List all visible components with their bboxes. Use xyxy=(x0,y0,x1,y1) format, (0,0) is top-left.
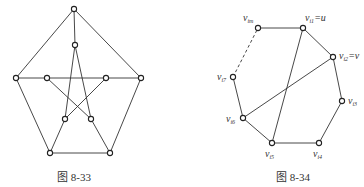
edge xyxy=(303,28,333,57)
diagram-canvas: vimvi1=uvi2=vvi3vi4vi5vi6vi7 图 8-33 图 8-… xyxy=(0,0,364,187)
edge xyxy=(333,57,342,101)
caption-figure-8-33: 图 8-33 xyxy=(57,171,91,183)
vertex-vi3 xyxy=(339,98,344,103)
edge xyxy=(47,78,91,119)
vertex-o4 xyxy=(47,150,52,155)
vertex-i5 xyxy=(44,75,49,80)
vertex-o1 xyxy=(71,6,76,11)
vertex-i2 xyxy=(103,75,108,80)
vertex-label-vi6: vi6 xyxy=(226,113,235,125)
vertex-vi2 xyxy=(330,54,335,59)
vertex-label-vi4: vi4 xyxy=(313,148,322,160)
vertex-i1 xyxy=(72,42,77,47)
edge xyxy=(65,78,106,119)
vertex-label-vi5: vi5 xyxy=(265,148,274,160)
figure-8-34-cycle-graph: vimvi1=uvi2=vvi3vi4vi5vi6vi7 xyxy=(217,12,360,160)
vertex-vi5 xyxy=(269,140,274,145)
dashed-edge xyxy=(233,28,258,77)
figure-8-33-petersen-graph xyxy=(13,6,143,155)
figure-8-34-edges xyxy=(233,28,342,143)
edge xyxy=(243,118,272,143)
vertex-label-vi2: vi2=v xyxy=(339,50,360,62)
vertex-vim xyxy=(255,25,260,30)
vertex-vi1 xyxy=(300,25,305,30)
vertex-i4 xyxy=(62,116,67,121)
vertex-label-vim: vim xyxy=(243,12,254,24)
figure-8-33-edges xyxy=(16,9,141,153)
edge xyxy=(319,101,342,143)
edge xyxy=(233,77,243,118)
vertex-o3 xyxy=(107,150,112,155)
figure-8-34-vertex-labels: vimvi1=uvi2=vvi3vi4vi5vi6vi7 xyxy=(217,12,360,160)
edge xyxy=(74,9,75,45)
edge xyxy=(16,9,74,78)
edge xyxy=(91,119,110,153)
vertex-o2 xyxy=(138,75,143,80)
edge xyxy=(16,78,50,153)
vertex-vi6 xyxy=(240,115,245,120)
vertex-label-vi1: vi1=u xyxy=(305,12,326,24)
vertex-o5 xyxy=(13,75,18,80)
edge xyxy=(110,78,141,153)
vertex-i3 xyxy=(88,116,93,121)
edge xyxy=(243,57,333,118)
vertex-label-vi7: vi7 xyxy=(217,71,227,83)
caption-figure-8-34: 图 8-34 xyxy=(276,171,310,183)
vertex-vi4 xyxy=(316,140,321,145)
vertex-label-vi3: vi3 xyxy=(348,95,357,107)
edge xyxy=(75,45,91,119)
edge xyxy=(272,28,303,143)
vertex-vi7 xyxy=(230,74,235,79)
edge xyxy=(65,45,75,119)
figure-8-33-nodes xyxy=(13,6,143,155)
edge xyxy=(50,119,65,153)
edge xyxy=(74,9,141,78)
